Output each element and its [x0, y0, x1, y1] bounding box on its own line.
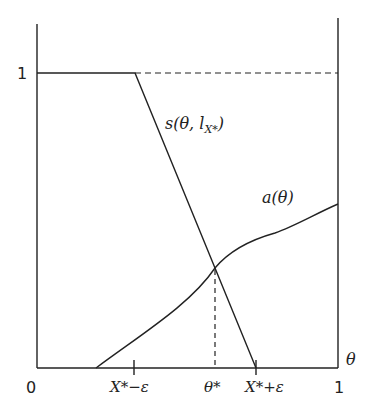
curve-a	[96, 204, 338, 368]
curve-s-label-main: s(θ, l	[165, 114, 204, 133]
x-axis-variable: θ	[346, 352, 356, 368]
y-label-one: 1	[17, 66, 27, 82]
tick-label-left: X*−ε	[110, 380, 149, 395]
tick-label-right: X*+ε	[245, 380, 284, 395]
curve-s-label: s(θ, lX*)	[165, 116, 224, 132]
tick-label-theta-star: θ*	[204, 380, 221, 395]
diagram-graphics	[0, 0, 373, 417]
curve-s-label-close: )	[218, 114, 224, 133]
curve-a-label: a(θ)	[262, 190, 294, 206]
diagram: 1 0 1 θ X*−ε θ* X*+ε s(θ, lX*) a(θ)	[0, 0, 373, 417]
x-label-one: 1	[334, 380, 344, 396]
x-label-zero: 0	[26, 380, 36, 396]
curve-s-label-subscript: X*	[204, 123, 217, 136]
